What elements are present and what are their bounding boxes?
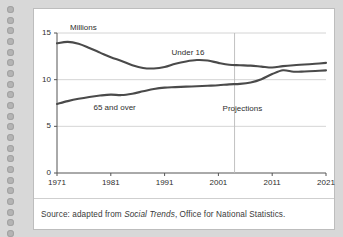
binding-hole xyxy=(7,145,14,152)
x-tick-label-2011: 2011 xyxy=(256,178,288,187)
binding-hole xyxy=(7,134,14,141)
source-caption: Source: adapted from Social Trends, Offi… xyxy=(34,210,285,219)
binding-hole xyxy=(7,59,14,66)
y-tick-label-15: 15 xyxy=(35,28,51,37)
binding-hole xyxy=(7,177,14,184)
binding-hole xyxy=(7,38,14,45)
binding-hole xyxy=(7,6,14,13)
binding-hole xyxy=(7,123,14,130)
binding-hole xyxy=(7,81,14,88)
projections-label: Projections xyxy=(223,104,263,113)
figure-card: Millions 051015197119811991200120112021U… xyxy=(33,8,335,230)
chart-plot-area: Millions 051015197119811991200120112021U… xyxy=(34,9,334,197)
binding-hole xyxy=(7,166,14,173)
binding-hole xyxy=(7,102,14,109)
binding-hole xyxy=(7,209,14,216)
under-16-label: Under 16 xyxy=(172,48,205,57)
y-tick-label-0: 0 xyxy=(35,168,51,177)
binding-hole xyxy=(7,91,14,98)
binding-hole xyxy=(7,155,14,162)
binding-hole xyxy=(7,70,14,77)
source-prefix: Source: adapted from xyxy=(41,210,124,219)
source-bar: Source: adapted from Social Trends, Offi… xyxy=(34,198,334,229)
binding-hole xyxy=(7,219,14,226)
binding-hole xyxy=(7,17,14,24)
x-tick-label-1971: 1971 xyxy=(41,178,73,187)
series-line-65-and-over xyxy=(57,70,326,104)
y-tick-label-10: 10 xyxy=(35,75,51,84)
x-tick-label-2001: 2001 xyxy=(202,178,234,187)
x-tick-label-1981: 1981 xyxy=(95,178,127,187)
textbook-page: Millions 051015197119811991200120112021U… xyxy=(0,0,343,236)
binding-hole xyxy=(7,198,14,205)
line-chart xyxy=(34,9,334,197)
x-tick-label-2021: 2021 xyxy=(310,178,342,187)
binding-hole xyxy=(7,230,14,236)
source-suffix: , Office for National Statistics. xyxy=(175,210,286,219)
spiral-binding xyxy=(0,0,26,236)
y-axis-title: Millions xyxy=(70,23,97,32)
y-tick-label-5: 5 xyxy=(35,121,51,130)
binding-hole xyxy=(7,187,14,194)
binding-hole xyxy=(7,49,14,56)
binding-hole xyxy=(7,113,14,120)
65-and-over-label: 65 and over xyxy=(93,103,135,112)
binding-hole xyxy=(7,27,14,34)
x-tick-label-1991: 1991 xyxy=(149,178,181,187)
source-publication: Social Trends xyxy=(124,210,175,219)
